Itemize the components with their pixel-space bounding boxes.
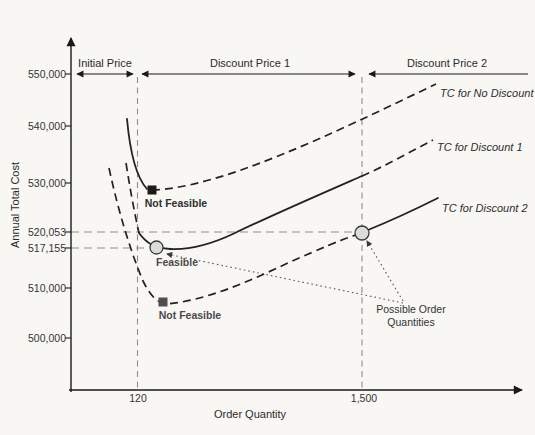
not-feasible-marker-upper bbox=[148, 186, 157, 195]
figure-quantity-discount-model: 550,000 540,000 530,000 520,053 517,155 … bbox=[0, 0, 535, 435]
y-tick-label: 500,000 bbox=[28, 332, 66, 344]
region-label-discount-price-1: Discount Price 1 bbox=[210, 57, 290, 69]
x-tick-label-120: 120 bbox=[129, 392, 147, 404]
note-not-feasible-lower: Not Feasible bbox=[159, 309, 222, 321]
region-label-initial-price: Initial Price bbox=[78, 57, 132, 69]
break-point-1500-marker bbox=[355, 226, 369, 240]
note-possible-order-line2: Quantities bbox=[387, 316, 434, 328]
note-possible-order-line1: Possible Order bbox=[376, 303, 446, 315]
not-feasible-marker-lower bbox=[159, 298, 168, 307]
tc-discount1-solid bbox=[139, 176, 362, 249]
curve-label-discount-2: TC for Discount 2 bbox=[442, 202, 528, 214]
y-tick-label: 520,053 bbox=[28, 226, 66, 238]
region-label-discount-price-2: Discount Price 2 bbox=[407, 57, 487, 69]
feasible-point-marker bbox=[150, 241, 163, 254]
note-feasible: Feasible bbox=[156, 256, 198, 268]
pointer-to-break-point bbox=[367, 241, 403, 301]
curve-label-no-discount: TC for No Discount bbox=[440, 87, 534, 99]
tc-discount2-solid bbox=[368, 198, 438, 230]
x-axis-title: Order Quantity bbox=[214, 408, 287, 420]
curve-label-discount-1: TC for Discount 1 bbox=[437, 141, 523, 153]
y-axis-title: Annual Total Cost bbox=[9, 162, 21, 248]
y-tick-label: 530,000 bbox=[28, 177, 66, 189]
y-tick-label: 540,000 bbox=[28, 120, 66, 132]
x-tick-label-1500: 1,500 bbox=[351, 392, 377, 404]
y-tick-label: 517,155 bbox=[28, 242, 66, 254]
tc-discount1-dashed-right bbox=[362, 140, 433, 176]
tc-no-discount-dashed bbox=[152, 84, 436, 190]
quantity-discount-chart: 550,000 540,000 530,000 520,053 517,155 … bbox=[0, 0, 535, 435]
pointer-to-feasible-point bbox=[167, 254, 403, 303]
y-tick-label: 510,000 bbox=[28, 282, 66, 294]
y-tick-label: 550,000 bbox=[28, 68, 66, 80]
note-not-feasible-upper: Not Feasible bbox=[145, 197, 208, 209]
